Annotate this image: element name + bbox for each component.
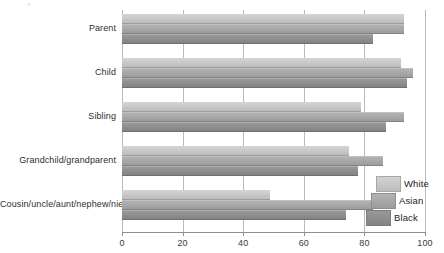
legend: White Asian Black xyxy=(366,176,444,228)
bar-black-4 xyxy=(122,210,346,220)
x-axis-tick-mark xyxy=(183,232,184,236)
scan-artifact xyxy=(27,3,31,6)
category-label: Grandchild/grandparent xyxy=(0,155,116,165)
bar-asian-0 xyxy=(122,24,404,34)
x-axis-tick-label: 60 xyxy=(299,238,309,248)
x-axis-tick-label: 80 xyxy=(359,238,369,248)
category-label: Parent xyxy=(0,23,116,33)
legend-swatch-asian-icon xyxy=(371,193,396,209)
bar-black-3 xyxy=(122,166,358,176)
x-axis-tick-label: 0 xyxy=(119,238,124,248)
bar-black-1 xyxy=(122,78,407,88)
x-axis-tick-label: 100 xyxy=(417,238,432,248)
legend-swatch-white-icon xyxy=(376,176,401,192)
bar-chart: 020406080100 ParentChildSiblingGrandchil… xyxy=(0,0,444,253)
bar-group xyxy=(122,14,425,44)
category-label: Cousin/uncle/aunt/nephew/niece xyxy=(0,199,116,209)
bar-white-0 xyxy=(122,14,404,24)
bar-asian-1 xyxy=(122,68,413,78)
bar-asian-3 xyxy=(122,156,383,166)
bar-white-2 xyxy=(122,102,361,112)
x-axis-tick-label: 40 xyxy=(238,238,248,248)
legend-label-black: Black xyxy=(394,212,418,223)
x-axis-tick-mark xyxy=(122,232,123,236)
bar-white-1 xyxy=(122,58,401,68)
legend-label-white: White xyxy=(404,178,429,189)
bar-black-2 xyxy=(122,122,386,132)
bar-white-3 xyxy=(122,146,349,156)
x-axis-tick-label: 20 xyxy=(177,238,187,248)
legend-swatch-black-icon xyxy=(366,210,391,226)
x-axis-tick-mark xyxy=(243,232,244,236)
bar-group xyxy=(122,58,425,88)
category-label: Child xyxy=(0,67,116,77)
x-axis-tick-mark xyxy=(304,232,305,236)
bar-group xyxy=(122,102,425,132)
bar-asian-2 xyxy=(122,112,404,122)
x-axis-tick-mark xyxy=(364,232,365,236)
x-axis-tick-mark xyxy=(425,232,426,236)
category-label: Sibling xyxy=(0,111,116,121)
bar-black-0 xyxy=(122,34,373,44)
bar-white-4 xyxy=(122,190,270,200)
bar-group xyxy=(122,146,425,176)
legend-label-asian: Asian xyxy=(399,195,423,206)
bar-asian-4 xyxy=(122,200,373,210)
x-axis-line xyxy=(122,232,426,233)
